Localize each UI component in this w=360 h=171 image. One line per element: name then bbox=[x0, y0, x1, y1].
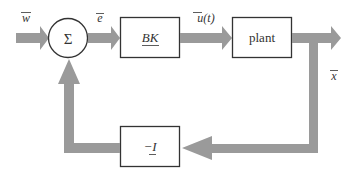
feedback-arrow bbox=[58, 59, 120, 153]
input-arrow bbox=[16, 26, 49, 50]
controller-label: BK bbox=[142, 30, 160, 45]
output-arrow bbox=[292, 26, 341, 153]
feedback-return-arrow bbox=[182, 136, 318, 160]
signal-w-label: w bbox=[22, 11, 30, 25]
feedback-label: −I bbox=[143, 139, 157, 154]
error-arrow bbox=[88, 26, 120, 50]
control-arrow bbox=[180, 26, 232, 50]
plant-label: plant bbox=[249, 30, 275, 45]
block-diagram: Σ BK plant −I w e u(t) x bbox=[0, 0, 360, 171]
sum-symbol: Σ bbox=[64, 31, 73, 47]
signal-u-label: u(t) bbox=[197, 11, 214, 25]
signal-x-label: x bbox=[330, 69, 337, 83]
